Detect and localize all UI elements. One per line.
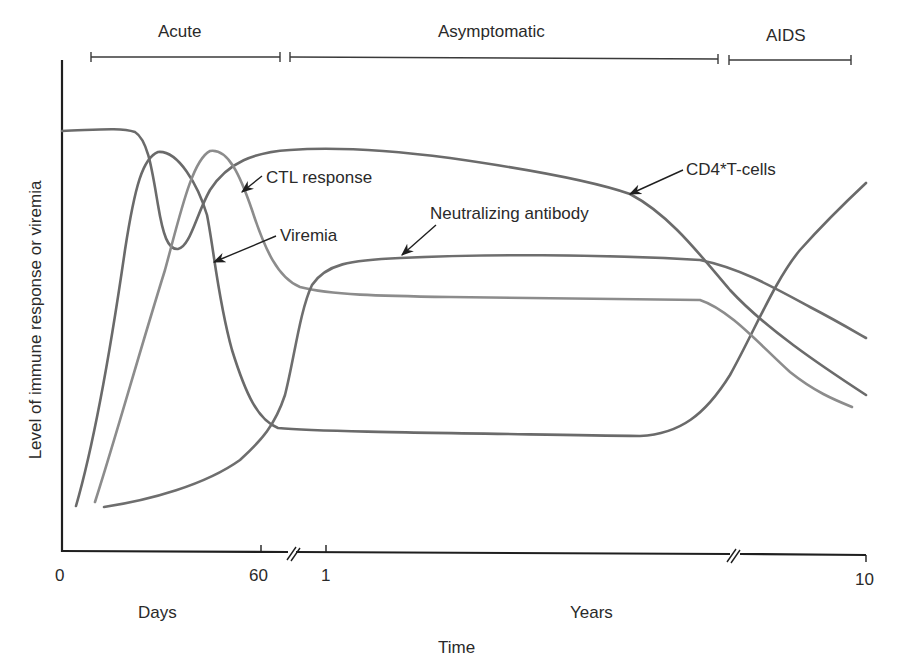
x-axis-right bbox=[740, 554, 866, 555]
y-axis-label: Level of immune response or viremia bbox=[26, 181, 46, 460]
x-unit-days: Days bbox=[138, 603, 177, 623]
tick-label-1: 1 bbox=[321, 566, 330, 586]
annotation-neutralizing-antibody: Neutralizing antibody bbox=[430, 204, 589, 224]
phase-bars bbox=[91, 52, 851, 65]
phase-bar-asymptomatic bbox=[290, 57, 718, 59]
annotation-viremia: Viremia bbox=[280, 226, 337, 246]
tick-label-10: 10 bbox=[855, 570, 874, 590]
arrow-ctl-response bbox=[242, 176, 262, 192]
x-axis-left bbox=[61, 551, 288, 552]
arrow-cd4-t-cells bbox=[630, 170, 683, 194]
phase-label-acute: Acute bbox=[158, 22, 201, 42]
axis-break-icons bbox=[287, 547, 740, 563]
phase-label-aids: AIDS bbox=[766, 26, 806, 46]
annotation-ctl-response: CTL response bbox=[266, 168, 372, 188]
x-axis-label: Time bbox=[438, 638, 475, 658]
x-axis-mid bbox=[296, 552, 730, 554]
arrow-neutralizing-antibody bbox=[402, 225, 436, 255]
tick-label-0: 0 bbox=[55, 566, 64, 586]
axis-break-icon bbox=[287, 547, 296, 560]
curve-neutralizing-antibody bbox=[104, 255, 866, 507]
axis-break-icon bbox=[727, 549, 736, 562]
axes bbox=[61, 60, 866, 562]
tick-label-60: 60 bbox=[249, 566, 268, 586]
phase-label-asymptomatic: Asymptomatic bbox=[438, 22, 545, 42]
hiv-course-chart bbox=[0, 0, 903, 661]
x-unit-years: Years bbox=[570, 603, 613, 623]
annotation-cd4-t-cells: CD4*T-cells bbox=[686, 160, 776, 180]
